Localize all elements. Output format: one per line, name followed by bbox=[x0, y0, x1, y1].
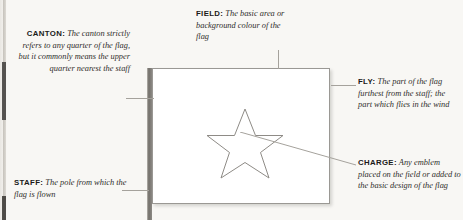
leader-line-field bbox=[278, 50, 279, 69]
flag-charge-star-icon bbox=[206, 107, 284, 179]
page-gutter-line bbox=[3, 0, 6, 220]
page-gutter-shading bbox=[0, 0, 7, 220]
callout-charge: CHARGE: Any emblem placed on the field o… bbox=[358, 157, 462, 192]
flag-anatomy-diagram: CANTON: The canton strictly refers to an… bbox=[0, 0, 463, 220]
callout-field-term: FIELD: bbox=[196, 9, 223, 18]
callout-canton: CANTON: The canton strictly refers to an… bbox=[10, 28, 130, 74]
callout-staff: STAFF: The pole from which the flag is f… bbox=[14, 177, 130, 200]
callout-fly-term: FLY: bbox=[358, 77, 375, 86]
callout-canton-term: CANTON: bbox=[27, 29, 65, 38]
callout-fly: FLY: The part of the flag furthest from … bbox=[358, 76, 460, 111]
callout-field: FIELD: The basic area or background colo… bbox=[196, 8, 292, 43]
callout-charge-term: CHARGE: bbox=[358, 158, 397, 167]
page-gutter-mark-top bbox=[2, 62, 6, 120]
callout-staff-term: STAFF: bbox=[14, 178, 43, 187]
page-gutter-mark-bottom bbox=[2, 196, 6, 220]
leader-line-fly bbox=[331, 85, 356, 86]
